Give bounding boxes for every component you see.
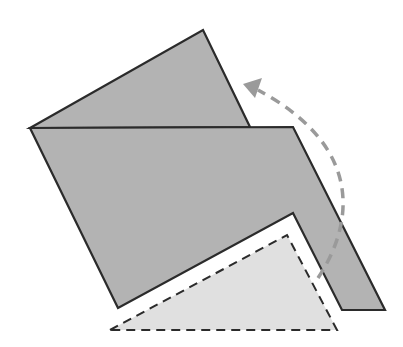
back-flap — [30, 30, 250, 128]
arrow-head-icon — [243, 78, 262, 98]
fold-diagram — [0, 0, 403, 347]
